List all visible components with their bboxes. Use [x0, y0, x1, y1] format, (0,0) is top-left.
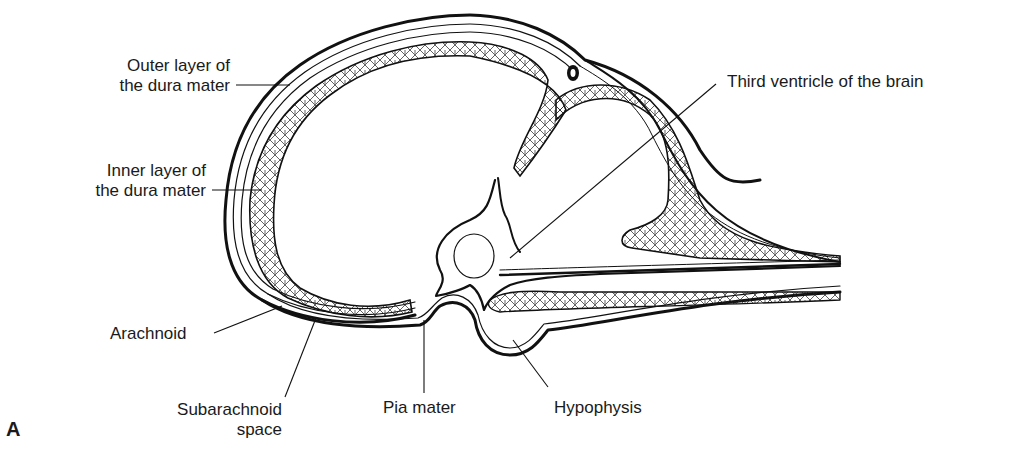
label-arachnoid: Arachnoid: [110, 324, 187, 344]
leader-arachnoid: [214, 306, 282, 333]
skull-base-meninges: [262, 286, 840, 355]
leader-subarachnoid: [285, 318, 316, 397]
label-pia-mater: Pia mater: [383, 398, 456, 418]
meninges-diagram: Outer layer of the dura mater Inner laye…: [0, 0, 1010, 462]
panel-letter: A: [6, 418, 20, 441]
label-hypophysis: Hypophysis: [554, 398, 642, 418]
label-third-ventricle: Third ventricle of the brain: [727, 72, 924, 92]
label-subarachnoid: Subarachnoid space: [150, 400, 282, 440]
label-inner-dura: Inner layer of the dura mater: [64, 161, 206, 201]
label-outer-dura: Outer layer of the dura mater: [88, 56, 230, 96]
